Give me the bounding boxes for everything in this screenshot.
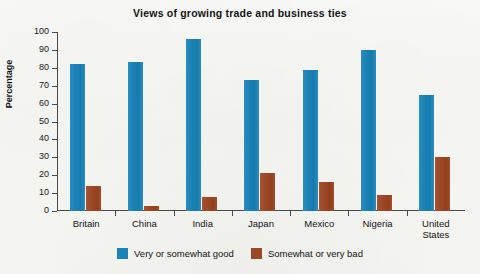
- bar-nigeria-good: [361, 50, 376, 211]
- bar-nigeria-bad: [377, 195, 392, 211]
- legend-item-good[interactable]: Very or somewhat good: [117, 248, 234, 259]
- bar-china-bad: [144, 206, 159, 211]
- bar-group-china: China: [115, 32, 173, 211]
- x-tick-label-china: China: [115, 218, 173, 229]
- bar-group-mexico: Mexico: [290, 32, 348, 211]
- bar-group-united-states: United States: [407, 32, 465, 211]
- y-tick-label: 100: [34, 26, 49, 36]
- category-divider: [290, 211, 291, 216]
- bar-group-japan: Japan: [232, 32, 290, 211]
- y-tick-label: 40: [39, 133, 49, 143]
- bar-mexico-bad: [319, 182, 334, 211]
- category-divider: [348, 211, 349, 216]
- category-divider: [115, 211, 116, 216]
- y-tick-label: 0: [44, 205, 49, 215]
- bar-japan-bad: [260, 173, 275, 211]
- y-tick-label: 50: [39, 116, 49, 126]
- category-divider: [407, 211, 408, 216]
- legend-swatch-bad: [251, 248, 262, 259]
- y-tick-mark: [52, 211, 57, 212]
- bar-india-bad: [202, 197, 217, 211]
- legend-label: Very or somewhat good: [134, 248, 234, 259]
- bar-britain-bad: [86, 186, 101, 211]
- x-tick-label-japan: Japan: [232, 218, 290, 229]
- chart-screenshot: Views of growing trade and business ties…: [0, 0, 480, 274]
- x-tick-label-india: India: [174, 218, 232, 229]
- legend-item-bad[interactable]: Somewhat or very bad: [251, 248, 363, 259]
- x-tick-label-united-states: United States: [407, 218, 465, 240]
- bar-united-states-bad: [435, 157, 450, 211]
- bar-china-good: [128, 62, 143, 211]
- x-tick-label-nigeria: Nigeria: [348, 218, 406, 229]
- bar-group-india: India: [174, 32, 232, 211]
- bar-united-states-good: [419, 95, 434, 211]
- category-divider: [174, 211, 175, 216]
- plot-area: 1009080706050403020100 BritainChinaIndia…: [57, 32, 465, 211]
- bar-mexico-good: [303, 70, 318, 211]
- chart-legend: Very or somewhat goodSomewhat or very ba…: [0, 248, 480, 259]
- y-tick-label: 60: [39, 98, 49, 108]
- y-tick-label: 70: [39, 80, 49, 90]
- bar-india-good: [186, 39, 201, 211]
- y-axis-title: Percentage: [4, 60, 14, 109]
- legend-swatch-good: [117, 248, 128, 259]
- bar-group-nigeria: Nigeria: [348, 32, 406, 211]
- category-divider: [232, 211, 233, 216]
- chart-title: Views of growing trade and business ties: [0, 7, 480, 19]
- bar-britain-good: [70, 64, 85, 211]
- y-tick-label: 20: [39, 169, 49, 179]
- y-tick-label: 90: [39, 44, 49, 54]
- legend-label: Somewhat or very bad: [268, 248, 363, 259]
- y-tick-label: 30: [39, 151, 49, 161]
- x-tick-label-mexico: Mexico: [290, 218, 348, 229]
- bar-group-britain: Britain: [57, 32, 115, 211]
- x-tick-label-britain: Britain: [57, 218, 115, 229]
- y-tick-label: 10: [39, 187, 49, 197]
- y-tick-label: 80: [39, 62, 49, 72]
- bar-japan-good: [244, 80, 259, 211]
